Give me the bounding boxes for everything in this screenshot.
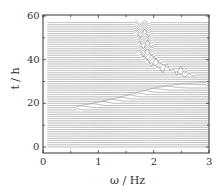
y-axis-label: t / h [9, 64, 22, 94]
trace-lines [47, 21, 209, 148]
x-tick-label: 0 [40, 157, 46, 167]
x-tick-label: 1 [95, 157, 101, 167]
y-tick-label: 60 [27, 11, 40, 21]
x-tick-label: 2 [151, 157, 157, 167]
x-tick-label: 3 [206, 157, 212, 167]
y-tick-label: 40 [27, 55, 40, 65]
x-axis-label: ω / Hz [110, 174, 145, 187]
y-tick-label: 20 [27, 98, 40, 108]
y-tick-label: 0 [33, 142, 39, 152]
